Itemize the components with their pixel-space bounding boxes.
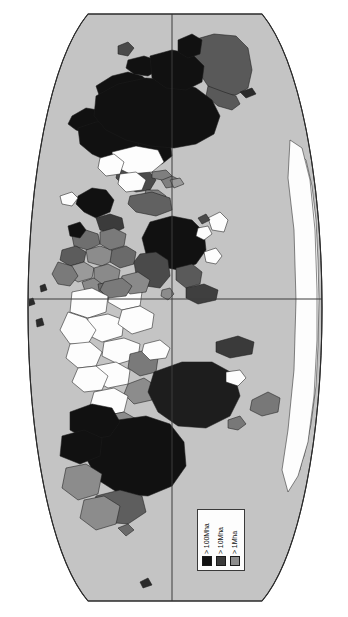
legend-row-over-10-mha: > 10Mha bbox=[214, 513, 228, 567]
legend-label-over-100-mha: > 100Mha bbox=[203, 513, 211, 554]
area-legend: > 100Mha > 10Mha > 1Mha bbox=[197, 509, 245, 571]
legend-row-over-100-mha: > 100Mha bbox=[200, 513, 214, 567]
legend-swatch-over-1-mha bbox=[230, 556, 240, 566]
world-map-svg bbox=[0, 0, 348, 617]
legend-label-over-1-mha: > 1Mha bbox=[231, 513, 239, 554]
legend-row-over-1-mha: > 1Mha bbox=[228, 513, 242, 567]
legend-swatch-over-100-mha bbox=[202, 556, 212, 566]
map-figure: > 100Mha > 10Mha > 1Mha bbox=[0, 0, 348, 617]
legend-label-over-10-mha: > 10Mha bbox=[217, 513, 225, 554]
legend-swatch-over-10-mha bbox=[216, 556, 226, 566]
